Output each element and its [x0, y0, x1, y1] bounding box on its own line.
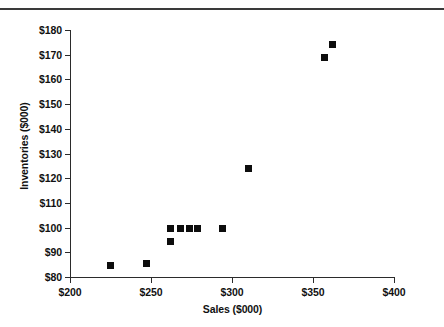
data-point-marker: [177, 225, 184, 232]
data-point-marker: [186, 225, 193, 232]
x-axis-tick: [151, 278, 152, 283]
x-axis-tick-label-wrap: $200: [40, 287, 100, 300]
y-axis-tick-label-wrap: $80: [14, 272, 62, 283]
data-point-marker: [219, 225, 226, 232]
x-axis-tick-label-wrap: $350: [283, 287, 343, 300]
x-axis-tick-label: $250: [121, 287, 181, 298]
y-axis-tick-label: $170: [22, 50, 62, 61]
x-axis-tick: [313, 278, 314, 283]
y-axis-title: Inventories ($000): [18, 66, 30, 226]
data-point-marker: [107, 262, 114, 269]
x-axis-title: Sales ($000): [70, 303, 395, 315]
data-point-marker: [194, 225, 201, 232]
y-axis-tick-label: $90: [22, 247, 62, 258]
data-point-marker: [143, 260, 150, 267]
plot-area: [70, 30, 394, 277]
x-axis-tick-label: $300: [202, 287, 262, 298]
y-axis-tick-label-wrap: $90: [14, 247, 62, 258]
data-point-marker: [321, 54, 328, 61]
x-axis-tick-label-wrap: $300: [202, 287, 262, 300]
y-axis-tick-label-wrap: $180: [14, 25, 62, 36]
scatter-chart-figure: $80$90$100$110$120$130$140$150$160$170$1…: [0, 0, 444, 327]
data-point-marker: [329, 41, 336, 48]
data-point-marker: [167, 238, 174, 245]
data-point-marker: [167, 225, 174, 232]
x-axis-tick-label: $200: [40, 287, 100, 298]
y-axis-tick-label-wrap: $170: [14, 50, 62, 61]
y-axis-tick-label: $80: [22, 272, 62, 283]
x-axis-tick-label: $400: [364, 287, 424, 298]
y-axis-tick-label: $180: [22, 25, 62, 36]
data-point-marker: [245, 165, 252, 172]
x-axis-tick: [232, 278, 233, 283]
x-axis-tick: [70, 278, 71, 283]
x-axis-tick: [394, 278, 395, 283]
x-axis-tick-label-wrap: $250: [121, 287, 181, 300]
x-axis-tick-label-wrap: $400: [364, 287, 424, 300]
x-axis-tick-label: $350: [283, 287, 343, 298]
